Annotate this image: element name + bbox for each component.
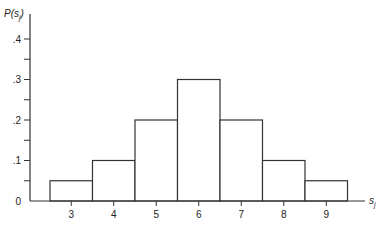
- bar-3: [50, 181, 93, 201]
- bar-4: [93, 161, 136, 202]
- x-tick-label: 5: [153, 209, 159, 220]
- bar-8: [263, 161, 306, 202]
- y-tick-label: .4: [13, 34, 22, 45]
- histogram-chart: 0.1.2.3.4 3456789 P(sj) sj: [0, 0, 385, 225]
- y-tick-label: .2: [13, 115, 22, 126]
- y-tick-label: .3: [13, 74, 22, 85]
- x-tick-label: 7: [238, 209, 244, 220]
- bar-7: [220, 120, 263, 201]
- bar-9: [305, 181, 348, 201]
- y-tick-label: 0: [15, 196, 21, 207]
- bar-5: [135, 120, 178, 201]
- y-axis-label: P(sj): [4, 8, 24, 22]
- x-tick-label: 6: [196, 209, 202, 220]
- x-tick-label: 3: [68, 209, 74, 220]
- bar-6: [178, 80, 221, 202]
- x-tick-label: 4: [111, 209, 117, 220]
- x-axis: 3456789: [30, 201, 365, 220]
- x-tick-label: 8: [281, 209, 287, 220]
- x-axis-label: sj: [369, 195, 376, 209]
- y-tick-label: .1: [13, 155, 22, 166]
- y-axis: 0.1.2.3.4: [13, 14, 30, 207]
- x-tick-label: 9: [323, 209, 329, 220]
- bars: [50, 80, 348, 202]
